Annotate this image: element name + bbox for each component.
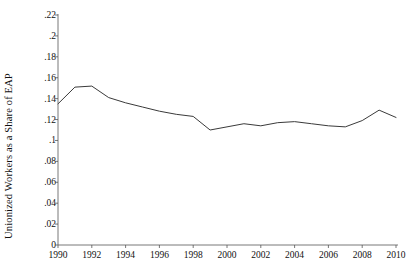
chart-container: Unionized Workers as a Share of EAP 0.02… xyxy=(0,0,408,276)
data-series-line xyxy=(58,86,396,130)
axis-lines xyxy=(58,14,398,245)
x-axis-tick-marks xyxy=(58,245,396,248)
y-axis-tick-marks xyxy=(55,15,58,245)
x-tick-label: 2010 xyxy=(376,250,408,261)
plot-area xyxy=(0,0,408,276)
